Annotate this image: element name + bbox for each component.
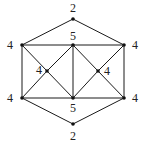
vertex-li bbox=[45, 69, 49, 73]
node-label-bot: 2 bbox=[70, 130, 76, 142]
node-label-ru: 4 bbox=[132, 39, 138, 51]
node-label-lu: 4 bbox=[7, 39, 13, 51]
edge-top-ru bbox=[73, 19, 124, 45]
node-label-ri: 4 bbox=[104, 65, 110, 77]
node-label-li: 4 bbox=[36, 64, 42, 76]
edge-top-lu bbox=[22, 19, 73, 45]
vertex-top bbox=[71, 17, 75, 21]
edge-ru-ri bbox=[98, 45, 124, 71]
edge-rl-bot bbox=[73, 98, 124, 124]
edge-li-lc bbox=[47, 71, 73, 98]
node-label-top: 2 bbox=[70, 2, 76, 14]
node-label-uc: 5 bbox=[70, 30, 76, 42]
edge-ri-rl bbox=[98, 71, 124, 98]
node-label-ll: 4 bbox=[7, 92, 13, 104]
edge-ll-li bbox=[22, 71, 47, 98]
graph-diagram: 2 4 5 4 4 4 4 5 4 2 bbox=[0, 0, 146, 145]
node-label-lc: 5 bbox=[70, 102, 76, 114]
node-label-rl: 4 bbox=[132, 92, 138, 104]
vertex-bot bbox=[71, 122, 75, 126]
vertex-rl bbox=[122, 96, 126, 100]
graph-edges-layer bbox=[0, 0, 146, 145]
edge-ri-lc bbox=[73, 71, 98, 98]
vertex-lu bbox=[20, 43, 24, 47]
edge-lu-li bbox=[22, 45, 47, 71]
edge-ll-bot bbox=[22, 98, 73, 124]
vertex-ru bbox=[122, 43, 126, 47]
vertex-uc bbox=[71, 43, 75, 47]
edge-uc-ri bbox=[73, 45, 98, 71]
vertex-ri bbox=[96, 69, 100, 73]
vertex-ll bbox=[20, 96, 24, 100]
edge-li-uc bbox=[47, 45, 73, 71]
vertex-lc bbox=[71, 96, 75, 100]
